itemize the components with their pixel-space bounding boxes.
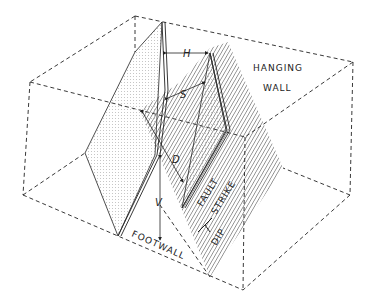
footwall-label: FOOTWALL: [130, 229, 187, 261]
d-symbol: D: [172, 154, 180, 165]
fault-block-diagram: H S D V HANGING WALL FOOTWALL FAULT STRI…: [0, 0, 374, 307]
h-symbol: H: [183, 48, 191, 59]
footwall-plane-dotted: [85, 22, 162, 236]
s-symbol: S: [180, 89, 187, 100]
hanging-wall-label-2: WALL: [263, 83, 292, 93]
v-symbol: V: [155, 197, 163, 208]
hanging-wall-label-1: HANGING: [253, 63, 303, 73]
